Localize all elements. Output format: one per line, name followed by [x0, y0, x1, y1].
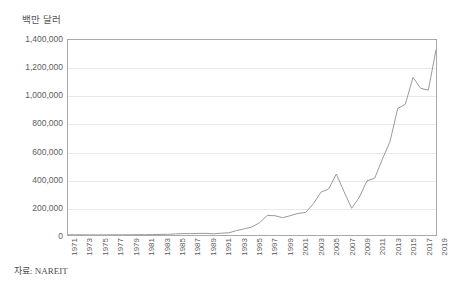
- x-tick-label: 1993: [241, 238, 249, 256]
- y-tick-label: 1,200,000: [1, 62, 63, 72]
- x-tick-label: 1979: [133, 238, 141, 256]
- x-tick-label: 1999: [287, 238, 295, 256]
- x-tick-label: 1991: [225, 238, 233, 256]
- y-tick-label: 800,000: [1, 118, 63, 128]
- x-tick-label: 2009: [364, 238, 372, 256]
- x-tick-label: 2007: [349, 238, 357, 256]
- y-axis-unit-title: 백만 달러: [22, 12, 62, 26]
- y-tick-label: 0: [1, 231, 63, 241]
- x-tick-label: 2015: [410, 238, 418, 256]
- x-tick-label: 1989: [210, 238, 218, 256]
- x-tick-label: 2005: [333, 238, 341, 256]
- x-tick-label: 1977: [117, 238, 125, 256]
- x-tick-label: 1997: [271, 238, 279, 256]
- x-tick-label: 2019: [441, 238, 449, 256]
- y-tick-label: 400,000: [1, 175, 63, 185]
- plot-area: [67, 39, 437, 236]
- x-tick-label: 1995: [256, 238, 264, 256]
- chart-figure: 백만 달러 0200,000400,000600,000800,0001,000…: [0, 0, 453, 284]
- x-tick-label: 2003: [318, 238, 326, 256]
- x-tick-label: 1975: [102, 238, 110, 256]
- series-line-chart: [68, 40, 436, 235]
- y-tick-label: 600,000: [1, 147, 63, 157]
- x-tick-label: 1971: [71, 238, 79, 256]
- y-axis-tick-labels: 0200,000400,000600,000800,0001,000,0001,…: [0, 39, 63, 236]
- x-axis-tick-labels: 1971197319751977197919811983198519871989…: [67, 238, 437, 272]
- x-tick-label: 1973: [86, 238, 94, 256]
- series-line-reit-market-cap: [68, 50, 436, 235]
- x-tick-label: 1983: [164, 238, 172, 256]
- x-tick-label: 1987: [194, 238, 202, 256]
- x-tick-label: 2017: [426, 238, 434, 256]
- x-tick-label: 1985: [179, 238, 187, 256]
- x-tick-label: 2001: [302, 238, 310, 256]
- y-tick-label: 1,000,000: [1, 90, 63, 100]
- y-tick-label: 1,400,000: [1, 34, 63, 44]
- y-tick-label: 200,000: [1, 203, 63, 213]
- source-note: 자료: NAREIT: [14, 264, 68, 277]
- x-tick-label: 2011: [379, 238, 387, 255]
- x-tick-label: 2013: [395, 238, 403, 256]
- x-tick-label: 1981: [148, 238, 156, 256]
